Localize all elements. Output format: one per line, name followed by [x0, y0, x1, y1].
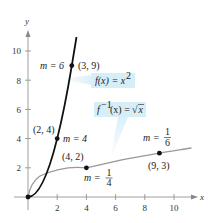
slope-label-9-3: m = 1 6 [143, 126, 171, 148]
y-tick-10: 10 [12, 46, 22, 56]
point-3-9 [69, 63, 74, 68]
slope-label-4-2: m = 1 4 [84, 167, 113, 188]
y-tick-8: 8 [17, 76, 22, 86]
y-axis-label: y [24, 16, 29, 26]
slope-9-3-denominator: 6 [165, 137, 170, 148]
point-4-2 [84, 165, 89, 170]
function-inverse-graph: x y 2 4 6 8 10 2 4 6 8 10 (3, 9) (2, 4) [0, 0, 214, 223]
f-label-text: f(x) = x [95, 75, 126, 87]
origin-point [26, 195, 31, 200]
x-tick-2: 2 [55, 203, 60, 213]
finv-callout-tail [110, 117, 128, 160]
slope-4-2-denominator: 4 [107, 177, 112, 188]
slope-label-9-3-prefix: m = [143, 132, 159, 143]
slope-label-3-9: m = 6 [40, 60, 64, 71]
f-label-exponent: 2 [126, 70, 131, 81]
point-label-9-3: (9, 3) [148, 160, 170, 172]
x-axis-label: x [199, 192, 204, 202]
point-label-2-4: (2, 4) [33, 124, 55, 136]
slope-label-2-4: m = 4 [63, 133, 87, 144]
slope-9-3-numerator: 1 [165, 126, 170, 137]
y-tick-2: 2 [17, 163, 22, 173]
y-tick-4: 4 [17, 134, 22, 144]
y-axis-arrow-icon [26, 30, 31, 37]
slope-label-4-2-prefix: m = [84, 172, 100, 183]
y-tick-6: 6 [17, 105, 22, 115]
sqrt-symbol-icon: √ [132, 104, 138, 115]
point-label-4-2: (4, 2) [62, 151, 84, 163]
x-tick-8: 8 [143, 203, 148, 213]
finv-label-rest: (x) = [110, 104, 130, 116]
point-9-3 [157, 151, 162, 156]
x-tick-6: 6 [113, 203, 118, 213]
x-axis: x [14, 192, 204, 202]
x-axis-arrow-icon [191, 195, 198, 200]
x-tick-4: 4 [84, 203, 89, 213]
finv-label-arg: x [138, 104, 144, 115]
f-callout-tail [60, 75, 92, 85]
point-label-3-9: (3, 9) [78, 60, 100, 72]
point-2-4 [55, 136, 60, 141]
y-axis: y [24, 16, 31, 210]
x-tick-10: 10 [170, 203, 180, 213]
